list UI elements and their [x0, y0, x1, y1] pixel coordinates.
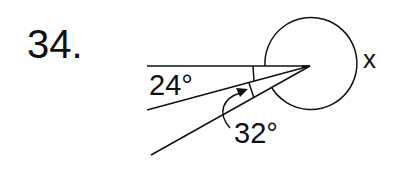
angle-arc-24 — [253, 66, 254, 81]
reflex-angle-arc — [265, 17, 357, 109]
angle-label-32: 32° — [234, 117, 278, 149]
angle-label-24: 24° — [149, 69, 193, 101]
angle-arc-32 — [249, 83, 254, 98]
arrowhead-icon — [236, 88, 248, 97]
angle-diagram: 24° 32° x — [0, 0, 412, 175]
unknown-angle-label: x — [363, 44, 376, 74]
